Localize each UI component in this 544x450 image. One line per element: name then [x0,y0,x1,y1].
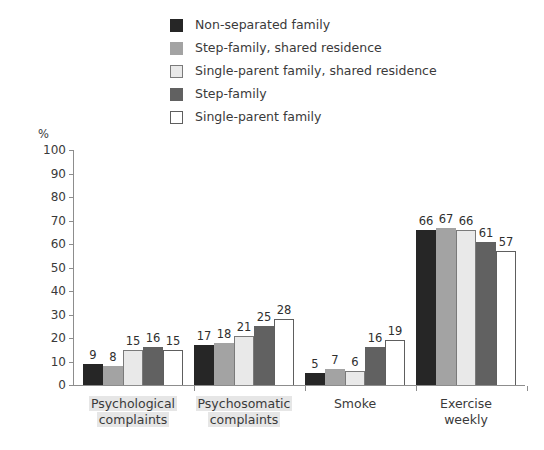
chart-figure: Non-separated familyStep-family, shared … [0,0,544,450]
x-axis-line [73,385,525,386]
bar [436,228,456,385]
bar [476,242,496,385]
y-axis-tick-mark [69,244,74,245]
x-axis-category-label: Exerciseweekly [396,396,536,428]
y-axis-tick-mark [69,385,74,386]
bar [416,230,436,385]
bar [345,371,365,385]
category-label-line: complaints [208,412,281,427]
bar-value-label: 15 [158,334,188,348]
bar [123,350,143,385]
y-axis-tick-label: 0 [38,378,66,392]
category-label-line: Exercise [440,396,492,411]
y-axis-tick-label: 40 [38,284,66,298]
chart-plot-area: % 0102030405060708090100 981516151718212… [0,0,544,450]
x-axis-tick-mark [194,386,195,391]
y-axis-tick-mark [69,362,74,363]
bar [456,230,476,385]
y-axis-tick-mark [69,197,74,198]
category-label-line: complaints [97,412,170,427]
x-axis-tick-mark [416,386,417,391]
y-axis-tick-label: 50 [38,261,66,275]
bar-value-label: 28 [269,303,299,317]
y-axis-tick-mark [69,315,74,316]
y-axis-tick-label: 60 [38,237,66,251]
y-axis-tick-mark [69,268,74,269]
x-axis-tick-mark [527,386,528,391]
y-axis-unit-label: % [38,127,49,141]
bar [234,336,254,385]
y-axis-tick-label: 80 [38,190,66,204]
bar [496,251,516,385]
bar [325,369,345,385]
bar-value-label: 57 [491,235,521,249]
y-axis-tick-label: 100 [38,143,66,157]
y-axis-tick-label: 70 [38,214,66,228]
y-axis-tick-label: 10 [38,355,66,369]
bar [365,347,385,385]
x-axis-tick-mark [305,386,306,391]
y-axis-tick-label: 20 [38,331,66,345]
bar [214,343,234,385]
bar [194,345,214,385]
category-label-line: weekly [444,412,488,427]
y-axis-tick-mark [69,174,74,175]
bar [143,347,163,385]
y-axis-tick-label: 30 [38,308,66,322]
y-axis-tick-mark [69,150,74,151]
bar [385,340,405,385]
bar [274,319,294,385]
y-axis-tick-mark [69,291,74,292]
bar-value-label: 19 [380,324,410,338]
bar [305,373,325,385]
category-label-line: Psychological [89,396,177,411]
y-axis-tick-mark [69,221,74,222]
bar [83,364,103,385]
category-label-line: Psychosomatic [196,396,293,411]
bar [103,366,123,385]
y-axis-tick-label: 90 [38,167,66,181]
category-label-line: Smoke [334,396,376,411]
bar [254,326,274,385]
y-axis-tick-mark [69,338,74,339]
bar [163,350,183,385]
